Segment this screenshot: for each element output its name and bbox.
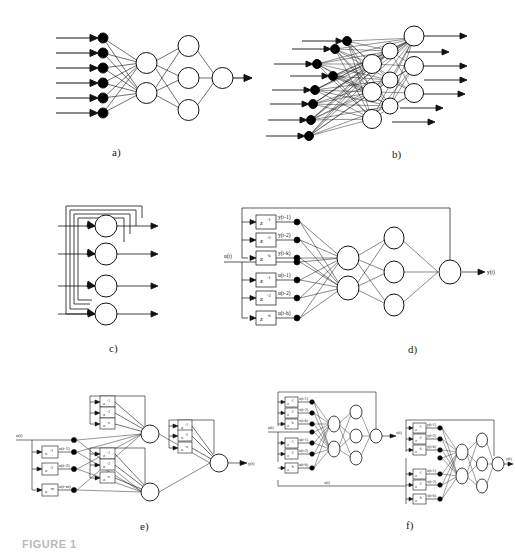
svg-text:-2: -2 bbox=[291, 451, 294, 455]
svg-text:-1: -1 bbox=[50, 449, 53, 453]
panel-c-nodes bbox=[95, 215, 117, 325]
label-f-y-t-2: y(t-2) bbox=[427, 433, 437, 438]
figure-caption: FIGURE 1 bbox=[22, 538, 77, 550]
svg-text:-k: -k bbox=[291, 421, 294, 425]
panel-e-local-block-2 bbox=[90, 448, 145, 490]
panel-a-edges-1 bbox=[103, 38, 141, 113]
panel-b-output-nodes bbox=[404, 26, 424, 103]
panel-f: z-1 z-2 z-k z-1 z-2 z-h z-1 z-2 z-k z-1 … bbox=[266, 386, 514, 514]
panel-a-hidden-nodes bbox=[136, 36, 199, 121]
panel-d-label: d) bbox=[408, 343, 417, 355]
panel-a-output-node bbox=[212, 68, 233, 89]
panel-d-edges-1 bbox=[300, 222, 342, 318]
panel-b-diagram bbox=[262, 8, 512, 140]
label-e-u-t-1: u(t-1) bbox=[59, 446, 70, 451]
svg-text:z: z bbox=[260, 219, 263, 226]
svg-text:-2: -2 bbox=[291, 410, 294, 414]
svg-text:z: z bbox=[415, 438, 417, 443]
svg-text:z: z bbox=[415, 484, 417, 489]
svg-text:-1: -1 bbox=[185, 423, 188, 427]
svg-text:z: z bbox=[287, 442, 289, 447]
panel-f-block1-neurons bbox=[328, 405, 382, 465]
svg-text:z: z bbox=[287, 453, 289, 458]
label-f-y-t-1: y(t-1) bbox=[427, 422, 437, 427]
label-f-x2-t-h: x(t-h) bbox=[427, 493, 437, 498]
panel-f-label: f) bbox=[406, 519, 413, 531]
svg-text:-n: -n bbox=[185, 445, 188, 449]
svg-text:-1: -1 bbox=[419, 471, 422, 475]
panel-d-diagram: z-1 z-2 z-k z-1 z-2 z-h y(t-1) y(t-2) y(… bbox=[222, 200, 502, 328]
label-f-x-t-bus: x(t) bbox=[324, 480, 330, 485]
svg-text:-h: -h bbox=[291, 465, 294, 469]
svg-text:z: z bbox=[287, 423, 289, 428]
panel-f-diagram: z-1 z-2 z-k z-1 z-2 z-h z-1 z-2 z-k z-1 … bbox=[266, 386, 514, 514]
panel-a-diagram bbox=[8, 8, 253, 138]
label-f-x-t-k: x(t-k) bbox=[299, 418, 309, 423]
label-u-t-1: u(t-1) bbox=[278, 272, 291, 279]
svg-text:-1: -1 bbox=[267, 217, 271, 222]
svg-text:-n: -n bbox=[107, 421, 110, 425]
label-f-u-t-1: u(t-1) bbox=[299, 437, 309, 442]
label-y-t-k: y(t-k) bbox=[278, 250, 291, 257]
panel-c bbox=[50, 196, 190, 326]
panel-f-block1-junctions bbox=[310, 400, 315, 471]
panel-e-hidden-neurons bbox=[141, 425, 159, 501]
panel-c-label: c) bbox=[109, 342, 118, 354]
panel-e-output-arrow bbox=[228, 461, 247, 466]
svg-text:-1: -1 bbox=[107, 399, 110, 403]
svg-text:-1: -1 bbox=[291, 440, 294, 444]
panel-b-label: b) bbox=[392, 148, 401, 160]
svg-text:-1: -1 bbox=[291, 399, 294, 403]
svg-text:-m: -m bbox=[50, 487, 54, 491]
label-u-t-h: u(t-h) bbox=[278, 310, 291, 317]
panel-d-hidden-nodes bbox=[337, 227, 461, 316]
svg-text:z: z bbox=[260, 255, 263, 262]
label-f-y-t: y(t) bbox=[506, 456, 512, 461]
panel-c-feedback-arrowheads bbox=[87, 221, 95, 315]
svg-text:-2: -2 bbox=[267, 293, 271, 298]
panel-d-edges-2 bbox=[354, 238, 388, 305]
panel-d-junction-nodes bbox=[294, 219, 300, 321]
label-e-y-t: y(t) bbox=[248, 461, 255, 466]
panel-e-input-junctions bbox=[71, 437, 76, 492]
panel-d-edges-3 bbox=[400, 238, 438, 305]
label-e-u-t-2: u(t-2) bbox=[59, 463, 70, 468]
svg-text:z: z bbox=[415, 473, 417, 478]
svg-text:-2: -2 bbox=[419, 482, 422, 486]
label-e-u-t-m: u(t-m) bbox=[59, 484, 71, 489]
label-u-t: u(t) bbox=[224, 253, 232, 260]
panel-c-diagram bbox=[50, 196, 190, 326]
svg-text:z: z bbox=[260, 315, 263, 322]
label-f-u-t: u(t) bbox=[268, 425, 274, 430]
panel-a-label: a) bbox=[112, 146, 121, 158]
svg-text:-k: -k bbox=[419, 447, 422, 451]
panel-e-output-neuron bbox=[210, 454, 228, 472]
label-y-t-out: y(t) bbox=[487, 269, 495, 276]
svg-text:-2: -2 bbox=[107, 462, 110, 466]
panel-e-diagram: z-1 z-2 z-m z-1 z-2 z-n z-1 z-2 z-n z-1 … bbox=[14, 390, 259, 512]
panel-a-input-nodes bbox=[98, 33, 108, 118]
panel-f-block1-output bbox=[382, 434, 396, 438]
label-e-u-t: u(t) bbox=[16, 433, 23, 438]
panel-d: z-1 z-2 z-k z-1 z-2 z-h y(t-1) y(t-2) y(… bbox=[222, 200, 502, 328]
panel-b bbox=[262, 8, 512, 140]
panel-c-input-arrows bbox=[58, 223, 95, 317]
label-u-t-2: u(t-2) bbox=[278, 290, 291, 297]
panel-e-local-block-1 bbox=[90, 396, 145, 432]
panel-e-label: e) bbox=[140, 520, 149, 532]
panel-a bbox=[8, 8, 253, 138]
svg-text:z: z bbox=[415, 498, 417, 503]
label-y-t-1: y(t-1) bbox=[278, 214, 291, 221]
label-f-u-t-2: u(t-2) bbox=[299, 448, 309, 453]
label-f-x2-t-2: x(t-2) bbox=[427, 479, 437, 484]
panel-b-input-arrows bbox=[266, 38, 343, 139]
svg-text:-n: -n bbox=[107, 475, 110, 479]
label-f-x-t-2: x(t-2) bbox=[299, 407, 309, 412]
svg-text:z: z bbox=[415, 449, 417, 454]
label-f-x2-t-1: x(t-1) bbox=[427, 468, 437, 473]
panel-f-block2-junctions bbox=[438, 426, 443, 502]
svg-text:-2: -2 bbox=[107, 410, 110, 414]
svg-text:-2: -2 bbox=[50, 466, 53, 470]
svg-text:-1: -1 bbox=[419, 425, 422, 429]
svg-text:-1: -1 bbox=[267, 275, 271, 280]
